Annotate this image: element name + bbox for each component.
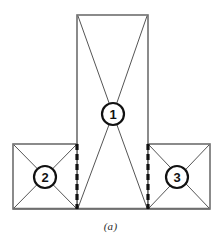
- node-label-1: 1: [109, 107, 116, 122]
- node-marker-3[interactable]: 3: [166, 166, 188, 188]
- node-marker-1[interactable]: 1: [102, 103, 124, 125]
- figure-caption: (a): [0, 220, 221, 232]
- node-label-3: 3: [173, 170, 180, 185]
- figure-container: 1 2 3 (a): [0, 0, 221, 243]
- panel-assembly-diagram: 1 2 3: [0, 0, 221, 243]
- node-marker-2[interactable]: 2: [34, 166, 56, 188]
- node-label-2: 2: [41, 170, 48, 185]
